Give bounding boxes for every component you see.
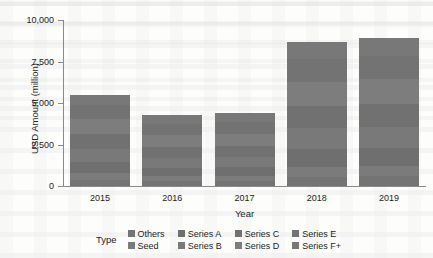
bar-segment[interactable] xyxy=(359,127,419,148)
chart-legend: Type OthersSeedSeries ASeries BSeries CS… xyxy=(96,228,341,251)
legend-label: Series E xyxy=(302,229,336,239)
x-axis-label: Year xyxy=(63,208,426,219)
bar-segment[interactable] xyxy=(70,119,130,134)
legend-item[interactable]: Series C xyxy=(235,228,280,239)
bar-segment[interactable] xyxy=(215,113,275,122)
bar-segment[interactable] xyxy=(215,181,275,186)
bar-segment[interactable] xyxy=(142,181,202,186)
bar-series-group: 20152016201720182019 xyxy=(64,20,425,186)
bar-segment[interactable] xyxy=(142,115,202,124)
legend-swatch-icon xyxy=(178,242,185,249)
bar-segment[interactable] xyxy=(70,173,130,180)
bar-segment[interactable] xyxy=(215,167,275,176)
stacked-bar[interactable] xyxy=(287,42,347,186)
bar-segment[interactable] xyxy=(359,79,419,103)
bar-band: 2015 xyxy=(64,20,136,186)
legend-label: Series D xyxy=(245,241,280,251)
legend-label: Others xyxy=(138,229,165,239)
y-axis-tick-label: 10,000 xyxy=(26,15,54,25)
bar-segment[interactable] xyxy=(70,95,130,105)
bar-segment[interactable] xyxy=(359,56,419,80)
bar-segment[interactable] xyxy=(287,106,347,128)
bar-segment[interactable] xyxy=(142,168,202,177)
bar-segment[interactable] xyxy=(359,38,419,55)
legend-swatch-icon xyxy=(292,242,299,249)
bar-band: 2017 xyxy=(208,20,280,186)
legend-swatch-icon xyxy=(235,242,242,249)
legend-swatch-icon xyxy=(292,230,299,237)
bar-segment[interactable] xyxy=(287,128,347,149)
bar-band: 2019 xyxy=(353,20,425,186)
bar-segment[interactable] xyxy=(70,134,130,148)
bar-band: 2018 xyxy=(281,20,353,186)
x-axis-tick-label: 2019 xyxy=(379,193,399,203)
bar-segment[interactable] xyxy=(70,162,130,174)
legend-title: Type xyxy=(96,228,117,245)
bar-segment[interactable] xyxy=(215,146,275,157)
legend-label: Series B xyxy=(188,241,222,251)
legend-item[interactable]: Others xyxy=(128,228,165,239)
legend-columns: OthersSeedSeries ASeries BSeries CSeries… xyxy=(128,228,341,251)
bar-segment[interactable] xyxy=(215,134,275,146)
bar-segment[interactable] xyxy=(287,59,347,82)
bar-segment[interactable] xyxy=(359,176,419,186)
y-axis-tick xyxy=(58,62,63,63)
bar-segment[interactable] xyxy=(287,82,347,106)
x-axis-tick-label: 2016 xyxy=(162,193,182,203)
bar-segment[interactable] xyxy=(70,180,130,186)
x-axis-tick-label: 2017 xyxy=(234,193,254,203)
stacked-bar[interactable] xyxy=(142,115,202,186)
legend-label: Series F+ xyxy=(302,241,341,251)
legend-column: OthersSeed xyxy=(128,228,165,251)
bar-segment[interactable] xyxy=(142,135,202,147)
bar-segment[interactable] xyxy=(359,166,419,176)
y-axis-tick xyxy=(58,145,63,146)
bar-segment[interactable] xyxy=(70,105,130,120)
bar-segment[interactable] xyxy=(215,122,275,134)
bar-segment[interactable] xyxy=(287,42,347,59)
legend-column: Series ESeries F+ xyxy=(292,228,341,251)
legend-swatch-icon xyxy=(178,230,185,237)
bar-segment[interactable] xyxy=(359,104,419,127)
bar-segment[interactable] xyxy=(287,177,347,186)
bar-segment[interactable] xyxy=(142,124,202,135)
legend-item[interactable]: Series A xyxy=(178,228,222,239)
legend-item[interactable]: Series F+ xyxy=(292,240,341,251)
stacked-bar[interactable] xyxy=(359,38,419,186)
legend-swatch-icon xyxy=(128,242,135,249)
legend-item[interactable]: Seed xyxy=(128,240,165,251)
bar-segment[interactable] xyxy=(287,167,347,177)
bar-segment[interactable] xyxy=(142,147,202,158)
legend-label: Seed xyxy=(138,241,159,251)
y-axis-tick xyxy=(58,186,63,187)
legend-swatch-icon xyxy=(235,230,242,237)
legend-item[interactable]: Series E xyxy=(292,228,341,239)
legend-label: Series C xyxy=(245,229,280,239)
chart-figure: 02,5005,0007,50010,000 USD Amount (milli… xyxy=(0,0,433,258)
legend-swatch-icon xyxy=(128,230,135,237)
legend-label: Series A xyxy=(188,229,222,239)
y-axis-tick-label: 0 xyxy=(49,181,54,191)
legend-column: Series ASeries B xyxy=(178,228,222,251)
bar-segment[interactable] xyxy=(70,149,130,162)
bar-segment[interactable] xyxy=(287,149,347,166)
legend-column: Series CSeries D xyxy=(235,228,280,251)
x-axis-tick-label: 2018 xyxy=(307,193,327,203)
bar-segment[interactable] xyxy=(215,157,275,167)
stacked-bar[interactable] xyxy=(215,113,275,186)
bar-segment[interactable] xyxy=(142,158,202,168)
stacked-bar[interactable] xyxy=(70,95,130,186)
y-axis-label: USD Amount (million) xyxy=(29,29,40,189)
legend-item[interactable]: Series B xyxy=(178,240,222,251)
x-axis-line xyxy=(63,186,426,187)
bar-segment[interactable] xyxy=(359,148,419,166)
y-axis-tick xyxy=(58,20,63,21)
bar-band: 2016 xyxy=(136,20,208,186)
y-axis-tick xyxy=(58,103,63,104)
legend-item[interactable]: Series D xyxy=(235,240,280,251)
x-axis-tick-label: 2015 xyxy=(90,193,110,203)
